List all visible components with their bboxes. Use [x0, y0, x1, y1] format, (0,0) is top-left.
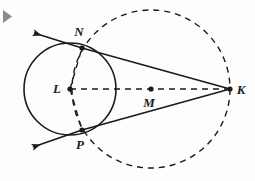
point-label-l: L	[52, 81, 61, 96]
segment-p-to-k	[82, 89, 230, 130]
segment-n-to-k	[82, 48, 230, 89]
point-label-k: K	[236, 82, 247, 97]
point-dot-n	[79, 45, 84, 50]
geometry-diagram: N L M K P	[0, 0, 255, 181]
page-marker-triangle-icon	[3, 10, 12, 23]
point-label-p: P	[76, 137, 85, 152]
segment-l-to-p	[70, 89, 82, 130]
geometry-canvas: N L M K P	[0, 0, 255, 181]
point-dot-k	[227, 86, 232, 91]
point-dot-m	[148, 86, 153, 91]
point-dot-l	[67, 86, 72, 91]
point-label-m: M	[142, 95, 155, 110]
point-dot-p	[79, 127, 84, 132]
point-label-n: N	[73, 24, 84, 39]
